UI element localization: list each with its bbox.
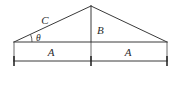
triangle-left-side-hypotenuse [14,6,91,42]
label-base-left-a: A [47,46,55,58]
geometry-figure: C B θ A A [0,0,180,93]
diagram-canvas: C B θ A A [0,0,180,93]
angle-arc-theta [31,35,32,43]
label-base-right-a: A [124,46,132,58]
label-hypotenuse-c: C [41,14,49,26]
label-angle-theta: θ [36,33,41,43]
label-height-b: B [97,24,104,36]
